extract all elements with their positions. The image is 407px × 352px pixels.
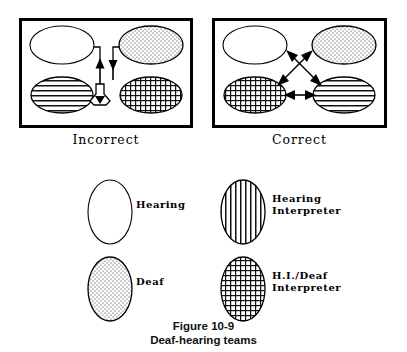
legend-swatch-hi-deaf-interpreter (221, 257, 265, 321)
figure-10-9: Incorrect Correct Hearing Hearing Interp… (0, 0, 407, 352)
legend-label-hearing-interpreter: Hearing Interpreter (272, 193, 341, 216)
figure-caption: Figure 10-9 Deaf-hearing teams (0, 320, 407, 347)
legend-swatch-deaf (88, 257, 132, 321)
panel-incorrect (21, 20, 192, 127)
node-correct-hearing-interpreter (313, 77, 375, 113)
legend-swatch-hearing (88, 180, 132, 244)
node-incorrect-hearing-interpreter (31, 77, 93, 113)
diagram-canvas (0, 0, 407, 352)
figure-title: Deaf-hearing teams (0, 334, 407, 348)
panel-caption-incorrect: Incorrect (20, 132, 192, 147)
legend-label-hearing: Hearing (136, 199, 185, 211)
node-incorrect-hearing (30, 26, 94, 64)
node-correct-hi-deaf-interpreter (224, 77, 286, 113)
node-correct-hearing (223, 26, 287, 64)
node-incorrect-deaf (119, 26, 183, 64)
legend-label-deaf: Deaf (136, 276, 164, 288)
legend-label-hi-deaf-interpreter: H.I./Deaf Interpreter (272, 270, 341, 293)
node-incorrect-hi-deaf-interpreter (120, 77, 182, 113)
legend-swatch-hearing-interpreter (221, 180, 265, 244)
figure-number: Figure 10-9 (0, 320, 407, 334)
panel-correct (214, 20, 386, 127)
panel-caption-correct: Correct (213, 132, 386, 147)
node-correct-deaf (312, 26, 376, 64)
